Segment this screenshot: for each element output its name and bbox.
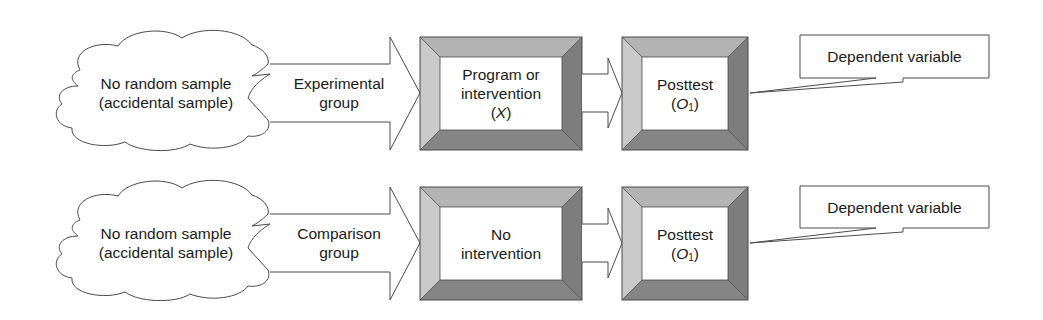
treatment-label: Program or intervention (X) (440, 57, 562, 130)
dependent-variable-label: Dependent variable (800, 186, 989, 228)
group-arrow-label: Comparison group (282, 218, 396, 268)
sample-label: No random sample (accidental sample) (78, 218, 254, 268)
treatment-to-posttest-arrow (582, 58, 622, 128)
treatment-label: No intervention (440, 207, 562, 280)
variable-x: X (496, 104, 506, 121)
posttest-label: Posttest (O1) (642, 57, 728, 130)
dependent-variable-label: Dependent variable (800, 35, 989, 78)
posttest-label: Posttest (O1) (642, 207, 728, 280)
group-arrow-label: Experimental group (282, 68, 396, 118)
sample-label: No random sample (accidental sample) (78, 68, 254, 118)
variable-o: O (676, 95, 688, 112)
treatment-to-posttest-arrow (582, 208, 622, 278)
variable-o: O (676, 245, 688, 262)
